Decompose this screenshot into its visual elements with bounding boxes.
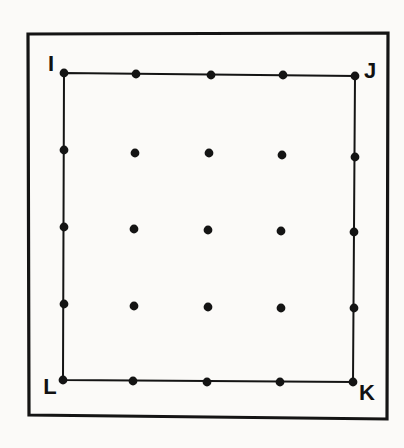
figure-svg: IJKL	[0, 0, 404, 448]
lattice-dot-r4-c2	[203, 378, 212, 387]
lattice-dot-r0-c1	[132, 70, 141, 79]
lattice-dot-r0-c0	[60, 69, 69, 78]
lattice-dot-r2-c0	[60, 223, 69, 232]
figure-canvas: IJKL	[0, 0, 404, 448]
lattice-dot-r2-c1	[130, 225, 139, 234]
lattice-dot-r1-c0	[60, 146, 69, 155]
lattice-dot-r0-c2	[207, 71, 216, 80]
lattice-dot-r0-c4	[351, 72, 360, 81]
lattice-dot-r2-c2	[204, 226, 213, 235]
vertex-label-j: J	[364, 58, 376, 83]
vertex-label-i: I	[48, 51, 54, 76]
lattice-dot-r3-c4	[350, 304, 359, 313]
lattice-dot-r2-c3	[277, 227, 286, 236]
lattice-dot-r1-c1	[131, 149, 140, 158]
lattice-dot-r4-c4	[349, 378, 358, 387]
lattice-dot-r1-c2	[205, 149, 214, 158]
lattice-dot-r4-c3	[276, 378, 285, 387]
lattice-dot-r1-c3	[278, 151, 287, 160]
lattice-dot-r3-c0	[60, 300, 69, 309]
lattice-dot-r4-c0	[59, 376, 68, 385]
lattice-dot-r3-c2	[204, 303, 213, 312]
lattice-dot-r3-c3	[277, 304, 286, 313]
vertex-label-k: K	[359, 380, 375, 405]
lattice-dot-r1-c4	[351, 153, 360, 162]
lattice-dot-r2-c4	[350, 228, 359, 237]
lattice-dot-r4-c1	[129, 377, 138, 386]
lattice-dot-r3-c1	[130, 302, 139, 311]
vertex-label-l: L	[43, 374, 56, 399]
lattice-dot-r0-c3	[279, 71, 288, 80]
